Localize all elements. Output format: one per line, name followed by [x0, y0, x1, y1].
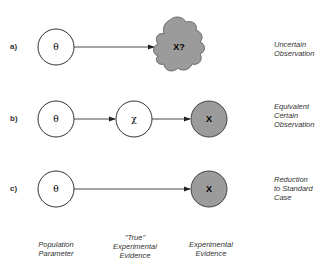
row-c-graph: [38, 171, 227, 207]
row-label-a: a): [10, 42, 17, 51]
row-label-b: b): [10, 114, 18, 123]
bottom-label-true-evidence: "True" Experimental Evidence: [95, 233, 175, 260]
note-b: Equivalent Certain Observation: [274, 102, 314, 129]
row-label-c: c): [10, 184, 17, 193]
note-c: Reduction to Standard Case: [274, 175, 313, 202]
x-label-c: X: [206, 184, 212, 194]
bottom-label-evidence: Experimental Evidence: [171, 240, 251, 258]
x-label-b: X: [206, 114, 212, 124]
note-a: Uncertain Observation: [274, 40, 314, 58]
theta-label-c: θ: [53, 184, 58, 194]
chi-label: χ: [131, 114, 137, 124]
bottom-label-population: Population Parameter: [16, 240, 96, 258]
theta-label-a: θ: [53, 42, 58, 52]
theta-label-b: θ: [53, 114, 58, 124]
xq-label: X?: [173, 42, 185, 52]
